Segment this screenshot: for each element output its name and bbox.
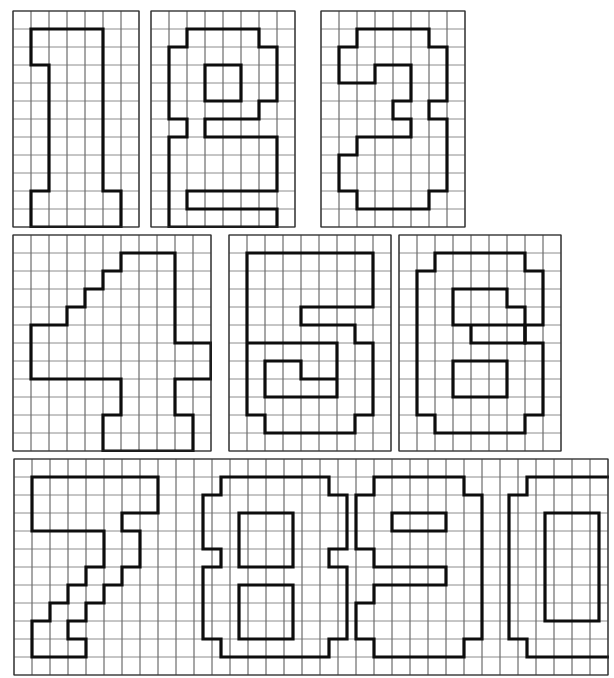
digit-panel-digit-3 bbox=[320, 10, 466, 228]
digit-outline-group bbox=[247, 253, 373, 433]
digit-glyph-1 bbox=[31, 29, 121, 227]
digit-panel-digit-2 bbox=[150, 10, 296, 228]
digit-glyph-9 bbox=[392, 513, 446, 531]
digit-panel-digit-5 bbox=[228, 234, 392, 452]
worksheet-sheet bbox=[0, 0, 614, 678]
digit-panel-digits-7890 bbox=[13, 458, 609, 676]
digit-panel-digit-1 bbox=[12, 10, 140, 228]
digit-glyph-5 bbox=[247, 253, 373, 433]
digit-outline-group bbox=[31, 29, 121, 227]
digit-panel-digit-6 bbox=[398, 234, 562, 452]
digit-panel-digit-4 bbox=[12, 234, 212, 452]
